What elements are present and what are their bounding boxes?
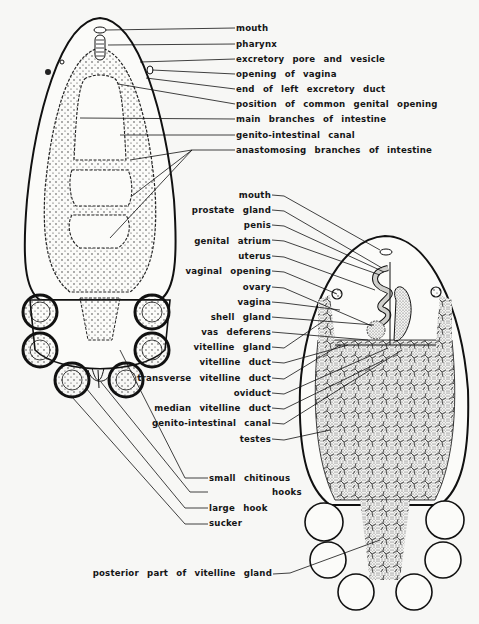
mouth-shape: [380, 249, 392, 255]
label-large-hook: large hook: [209, 503, 268, 513]
left-worm-body: [25, 18, 176, 300]
label-mouth-ventral: mouth: [239, 190, 271, 200]
label-vas-deferens: vas deferens: [201, 327, 271, 337]
right-opisthaptor: [305, 500, 464, 610]
label-main-branches-intestine: main branches of intestine: [236, 114, 386, 124]
label-ovary: ovary: [243, 282, 271, 292]
label-prostate-gland: prostate gland: [192, 205, 271, 215]
label-mouth: mouth: [236, 23, 268, 33]
label-penis: penis: [244, 220, 271, 230]
label-genito-intestinal-canal: genito-intestinal canal: [236, 130, 355, 140]
label-vaginal-opening: vaginal opening: [185, 266, 271, 276]
label-opening-vagina: opening of vagina: [236, 69, 337, 79]
label-vitelline-duct: vitelline duct: [199, 357, 271, 367]
label-genital-atrium: genital atrium: [194, 236, 271, 246]
label-pharynx: pharynx: [236, 39, 277, 49]
right-worm-body: [300, 236, 468, 505]
label-shell-gland: shell gland: [211, 312, 271, 322]
label-small-chitinous-hooks: small chitinous: [209, 473, 290, 483]
label-excretory-pore: excretory pore and vesicle: [236, 54, 385, 64]
label-vagina: vagina: [237, 297, 271, 307]
label-vitelline-gland: vitelline gland: [194, 342, 271, 352]
label-testes: testes: [240, 434, 271, 444]
label-transverse-vitelline-duct: transverse vitelline duct: [137, 373, 271, 383]
label-common-genital-opening: position of common genital opening: [236, 99, 438, 109]
label-genito-intestinal-canal-ventral: genito-intestinal canal: [152, 418, 271, 428]
label-posterior-vitelline-gland: posterior part of vitelline gland: [93, 568, 272, 578]
label-sucker: sucker: [209, 518, 242, 528]
label-anastomosing-branches: anastomosing branches of intestine: [236, 145, 432, 155]
label-oviduct: oviduct: [234, 388, 271, 398]
label-hooks: hooks: [272, 487, 302, 497]
label-end-left-excretory-duct: end of left excretory duct: [236, 84, 385, 94]
label-median-vitelline-duct: median vitelline duct: [154, 403, 271, 413]
label-uterus: uterus: [238, 251, 271, 261]
